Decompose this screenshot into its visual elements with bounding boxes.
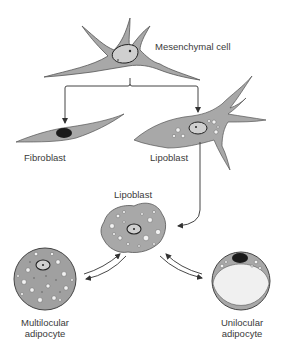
lipoblast-shape (101, 203, 166, 252)
multilocular-adipocyte-label: Multilocular adipocyte (12, 317, 78, 339)
multilocular-label-line2: adipocyte (12, 328, 78, 339)
fibroblast-label: Fibroblast (24, 152, 66, 163)
lipoblast-early-label: Lipoblast (150, 152, 188, 163)
lipoblast-label: Lipoblast (114, 189, 152, 200)
unilocular-interconversion-arrows (160, 254, 202, 278)
multilocular-adipocyte-shape (14, 248, 76, 310)
unilocular-adipocyte-shape (212, 252, 270, 310)
fibroblast-shape (16, 114, 124, 142)
unilocular-label-line2: adipocyte (210, 328, 274, 339)
multilocular-interconversion-arrows (84, 254, 126, 279)
unilocular-label-line1: Unilocular (210, 317, 274, 328)
unilocular-adipocyte-label: Unilocular adipocyte (210, 317, 274, 339)
multilocular-label-line1: Multilocular (12, 317, 78, 328)
diagram-canvas (0, 0, 284, 344)
branch-connector (65, 78, 198, 123)
mesenchymal-cell-label: Mesenchymal cell (155, 41, 231, 52)
